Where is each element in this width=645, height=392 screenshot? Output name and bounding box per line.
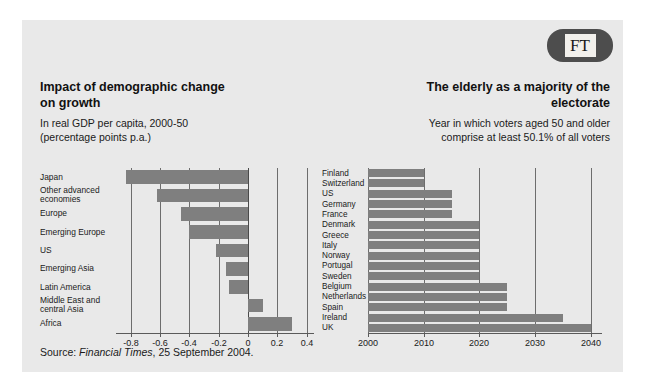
category-label-line: Africa	[40, 319, 61, 328]
category-label-line: central Asia	[40, 305, 100, 314]
chart-plot-left: JapanOther advancedeconomiesEuropeEmergi…	[40, 168, 314, 333]
category-label-line: Netherlands	[322, 292, 366, 301]
x-axis-tick-label: 2010	[414, 338, 434, 348]
category-label-line: Norway	[322, 251, 350, 260]
category-label-line: Emerging Asia	[40, 264, 94, 273]
figure-frame: FT Impact of demographic change on growt…	[22, 20, 623, 372]
bar	[368, 231, 479, 239]
category-label: Belgium	[322, 282, 352, 291]
gridline	[277, 168, 278, 333]
bar	[368, 200, 452, 208]
chart-title-left-line2: on growth	[40, 96, 325, 112]
category-labels-left: JapanOther advancedeconomiesEuropeEmergi…	[40, 168, 116, 333]
chart-plot-right: FinlandSwitzerlandUSGermanyFranceDenmark…	[322, 168, 602, 333]
bar	[368, 262, 479, 270]
x-axis-tick	[189, 333, 190, 337]
category-label: Other advancedeconomies	[40, 186, 100, 204]
gridline	[131, 168, 132, 333]
bar	[368, 190, 452, 198]
category-label-line: Belgium	[322, 282, 352, 291]
source-suffix: , 25 September 2004.	[153, 346, 254, 358]
panel-elderly-majority-of-electorate: The elderly as a majority of the elector…	[322, 80, 614, 145]
category-label: Emerging Europe	[40, 228, 105, 237]
chart-title-left: Impact of demographic change on growth	[40, 80, 325, 111]
chart-subtitle-right-line1: Year in which voters aged 50 and older	[322, 117, 610, 131]
category-label-line: US	[322, 189, 333, 198]
x-axis-tick-label: 2000	[358, 338, 378, 348]
x-axis-tick	[479, 333, 480, 337]
bar	[368, 293, 507, 301]
category-label: Germany	[322, 200, 356, 209]
x-axis-tick	[248, 333, 249, 337]
bar	[368, 272, 479, 280]
category-label: Spain	[322, 303, 343, 312]
bar	[368, 210, 452, 218]
bar	[368, 303, 507, 311]
category-label: France	[322, 210, 347, 219]
category-label-line: Sweden	[322, 272, 352, 281]
category-label-line: Spain	[322, 303, 343, 312]
x-axis-tick-label: 2040	[581, 338, 601, 348]
bar	[368, 241, 479, 249]
chart-title-right-line1: The elderly as a majority of the	[322, 80, 610, 96]
x-axis-tick-label: 0.2	[271, 338, 284, 348]
category-label-line: Japan	[40, 173, 63, 182]
category-label-line: Greece	[322, 231, 349, 240]
category-label: Latin America	[40, 283, 91, 292]
category-label: US	[40, 246, 52, 255]
bar	[248, 299, 263, 313]
category-label: Italy	[322, 241, 337, 250]
gridline	[591, 168, 592, 333]
bar	[368, 221, 479, 229]
source-publication: Financial Times	[79, 346, 152, 358]
source-prefix: Source:	[40, 346, 79, 358]
category-label-line: Europe	[40, 209, 67, 218]
x-axis-line-left	[116, 333, 314, 334]
bars-area-left	[116, 168, 314, 333]
bar	[126, 170, 248, 184]
bar	[216, 244, 248, 258]
source-note: Source: Financial Times, 25 September 20…	[40, 346, 254, 358]
panel-impact-of-demographic-change: Impact of demographic change on growth I…	[40, 80, 325, 145]
bar	[189, 225, 248, 239]
chart-title-right-line2: electorate	[322, 96, 610, 112]
category-label: Norway	[322, 251, 350, 260]
x-axis-tick	[368, 333, 369, 337]
category-label-line: Italy	[322, 241, 337, 250]
category-label: Africa	[40, 319, 61, 328]
category-label: US	[322, 189, 333, 198]
x-axis-tick-label: 2030	[525, 338, 545, 348]
bar	[226, 262, 248, 276]
category-label-line: Ireland	[322, 313, 347, 322]
bar	[368, 179, 424, 187]
x-axis-tick-label: 0.4	[301, 338, 314, 348]
category-label-line: Denmark	[322, 220, 355, 229]
bar	[368, 324, 591, 332]
chart-subtitle-left-line1: In real GDP per capita, 2000-50	[40, 117, 325, 131]
category-label: Portugal	[322, 261, 353, 270]
x-axis-tick	[219, 333, 220, 337]
category-label: Sweden	[322, 272, 352, 281]
bar	[368, 283, 507, 291]
bar	[248, 317, 292, 331]
x-axis-tick-label: 2020	[469, 338, 489, 348]
category-label-line: Switzerland	[322, 179, 364, 188]
category-label: UK	[322, 323, 333, 332]
category-label-line: Latin America	[40, 283, 91, 292]
category-label-line: economies	[40, 195, 100, 204]
bar	[368, 169, 424, 177]
ft-logo-text: FT	[565, 34, 596, 57]
category-label: Middle East andcentral Asia	[40, 296, 100, 314]
category-label: Finland	[322, 169, 349, 178]
x-axis-line-right	[368, 333, 602, 334]
category-labels-right: FinlandSwitzerlandUSGermanyFranceDenmark…	[322, 168, 368, 333]
bar	[368, 252, 479, 260]
x-axis-tick	[591, 333, 592, 337]
x-axis-tick	[160, 333, 161, 337]
gridline	[535, 168, 536, 333]
x-axis-tick	[131, 333, 132, 337]
category-label: Denmark	[322, 220, 355, 229]
category-label-line: UK	[322, 323, 333, 332]
x-axis-tick	[424, 333, 425, 337]
category-label: Ireland	[322, 313, 347, 322]
